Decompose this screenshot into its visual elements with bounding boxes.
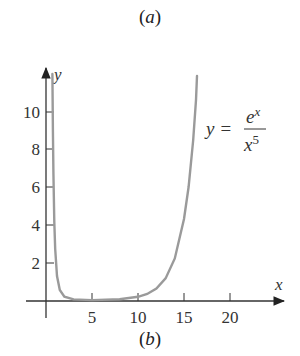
equation-denominator: x5 [243, 132, 259, 155]
y-tick-labels: 2 4 6 8 10 [23, 103, 41, 273]
x-tick-label: 10 [130, 308, 147, 327]
x-tick-label: 20 [222, 308, 239, 327]
y-tick-label: 8 [32, 140, 41, 159]
x-tick-labels: 5 10 15 20 [88, 308, 239, 327]
x-tick-label: 15 [176, 308, 193, 327]
equation-lhs-y: y [204, 118, 215, 139]
y-tick-label: 10 [23, 103, 40, 122]
caption-b: (b) [0, 328, 300, 350]
curve-series [52, 74, 197, 300]
x-tick-label: 5 [88, 308, 97, 327]
x-axis-label: x [274, 275, 283, 294]
svg-text:y=: y= [204, 118, 231, 139]
caption-b-letter: b [145, 328, 155, 349]
y-tick-label: 4 [32, 216, 41, 235]
equation-label: y= ex x5 [204, 104, 266, 155]
chart: 2 4 6 8 10 5 10 15 20 y x y= ex x5 [0, 0, 300, 356]
y-tick-label: 2 [32, 254, 41, 273]
equation-numerator: ex [246, 104, 260, 127]
y-tick-label: 6 [32, 178, 41, 197]
